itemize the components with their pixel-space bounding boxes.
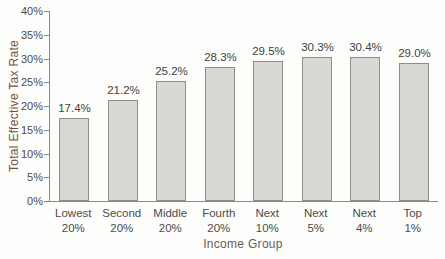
x-tick-label-line2: 5% bbox=[292, 221, 341, 236]
y-tick-label: 0% bbox=[3, 196, 43, 207]
y-tick-label: 35% bbox=[3, 30, 43, 41]
x-tick-label: Next4% bbox=[340, 206, 389, 236]
plot-area: 0%5%10%15%20%25%30%35%40%17.4%21.2%25.2%… bbox=[49, 11, 438, 202]
x-axis-title: Income Group bbox=[49, 237, 437, 251]
bar bbox=[302, 57, 332, 201]
x-tick-label-line1: Second bbox=[98, 206, 147, 221]
x-tick-label-line2: 4% bbox=[340, 221, 389, 236]
y-tick-label: 10% bbox=[3, 149, 43, 160]
bar-value-label: 25.2% bbox=[147, 65, 196, 77]
y-tick-mark bbox=[44, 11, 50, 12]
y-tick-mark bbox=[44, 130, 50, 131]
y-tick-label: 5% bbox=[3, 172, 43, 183]
bar-value-label: 30.3% bbox=[293, 41, 342, 53]
bar bbox=[59, 118, 89, 201]
x-tick-label-line1: Top bbox=[389, 206, 438, 221]
bar-value-label: 29.0% bbox=[390, 47, 439, 59]
bar bbox=[108, 100, 138, 201]
y-tick-label: 30% bbox=[3, 54, 43, 65]
x-tick-label: Fourth20% bbox=[195, 206, 244, 236]
x-tick-label: Lowest20% bbox=[49, 206, 98, 236]
x-tick-label-line1: Next bbox=[340, 206, 389, 221]
bar-value-label: 21.2% bbox=[99, 84, 148, 96]
x-tick-label: Middle20% bbox=[146, 206, 195, 236]
x-tick-label: Next5% bbox=[292, 206, 341, 236]
x-tick-label: Top1% bbox=[389, 206, 438, 236]
y-tick-mark bbox=[44, 177, 50, 178]
bar bbox=[205, 67, 235, 201]
x-axis-tick-labels: Lowest20%Second20%Middle20%Fourth20%Next… bbox=[49, 206, 437, 236]
y-tick-mark bbox=[44, 35, 50, 36]
bar-chart: Total Effective Tax Rate 0%5%10%15%20%25… bbox=[0, 0, 445, 259]
y-tick-mark bbox=[44, 59, 50, 60]
y-tick-label: 20% bbox=[3, 101, 43, 112]
x-tick-label-line1: Fourth bbox=[195, 206, 244, 221]
x-tick-label-line2: 20% bbox=[49, 221, 98, 236]
bar-value-label: 30.4% bbox=[341, 41, 390, 53]
x-tick-label-line2: 10% bbox=[243, 221, 292, 236]
y-tick-label: 40% bbox=[3, 6, 43, 17]
bar-value-label: 17.4% bbox=[50, 102, 99, 114]
y-tick-mark bbox=[44, 154, 50, 155]
x-tick-label-line2: 20% bbox=[146, 221, 195, 236]
y-tick-label: 15% bbox=[3, 125, 43, 136]
x-tick-label-line2: 20% bbox=[98, 221, 147, 236]
bar-value-label: 29.5% bbox=[244, 45, 293, 57]
bar-value-label: 28.3% bbox=[196, 51, 245, 63]
y-tick-mark bbox=[44, 201, 50, 202]
x-tick-label-line1: Middle bbox=[146, 206, 195, 221]
bar bbox=[156, 81, 186, 201]
y-tick-label: 25% bbox=[3, 77, 43, 88]
x-tick-label: Second20% bbox=[98, 206, 147, 236]
x-tick-label-line1: Next bbox=[243, 206, 292, 221]
bar bbox=[253, 61, 283, 201]
x-tick-label-line1: Next bbox=[292, 206, 341, 221]
y-tick-mark bbox=[44, 82, 50, 83]
bar bbox=[399, 63, 429, 201]
x-tick-label-line2: 1% bbox=[389, 221, 438, 236]
x-tick-label-line2: 20% bbox=[195, 221, 244, 236]
x-tick-label-line1: Lowest bbox=[49, 206, 98, 221]
bar bbox=[350, 57, 380, 201]
x-tick-label: Next10% bbox=[243, 206, 292, 236]
